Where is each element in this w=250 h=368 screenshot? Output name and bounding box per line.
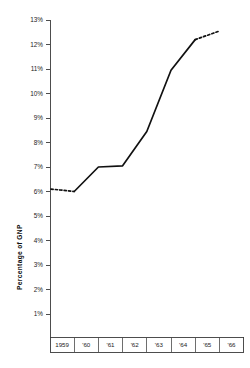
- y-tick-label: 12%: [30, 41, 43, 48]
- y-tick-label: 10%: [30, 90, 43, 97]
- y-tick-label: 1%: [34, 310, 44, 317]
- x-tick-label: '60: [82, 341, 91, 348]
- y-axis-title: Percentage of GNP: [16, 224, 24, 290]
- data-series-group: [51, 31, 219, 191]
- y-axis-tick-labels: 13% 12% 11% 10% 9% 8% 7% 6% 5% 4% 3% 2% …: [30, 16, 43, 317]
- y-tick-label: 2%: [34, 286, 44, 293]
- x-tick-label: 1959: [55, 341, 69, 348]
- x-tick-label: '64: [179, 341, 188, 348]
- y-tick-label: 7%: [34, 163, 44, 170]
- x-tick-label: '63: [155, 341, 164, 348]
- y-tick-label: 13%: [30, 16, 43, 23]
- x-tick-label: '62: [131, 341, 140, 348]
- y-tick-label: 3%: [34, 261, 44, 268]
- x-axis-tick-labels: 1959 '60 '61 '62 '63 '64 '65 '66: [55, 341, 236, 348]
- x-axis-band-dividers: [74, 337, 219, 352]
- x-tick-label: '61: [106, 341, 115, 348]
- line-chart: 13% 12% 11% 10% 9% 8% 7% 6% 5% 4% 3% 2% …: [0, 0, 250, 368]
- series-solid-line: [74, 40, 195, 192]
- series-dashed-lead-segment: [51, 189, 74, 191]
- x-tick-label: '65: [203, 341, 212, 348]
- y-tick-label: 6%: [34, 188, 44, 195]
- x-tick-label: '66: [227, 341, 236, 348]
- y-tick-label: 5%: [34, 212, 44, 219]
- y-tick-label: 8%: [34, 139, 44, 146]
- chart-container: 13% 12% 11% 10% 9% 8% 7% 6% 5% 4% 3% 2% …: [0, 0, 250, 368]
- y-tick-label: 11%: [31, 65, 44, 72]
- y-tick-label: 9%: [34, 114, 44, 121]
- series-dashed-projection-segment: [195, 31, 219, 40]
- y-tick-label: 4%: [34, 237, 44, 244]
- y-axis-ticks: [46, 20, 51, 314]
